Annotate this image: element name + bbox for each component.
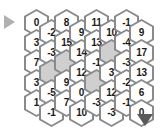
hex-grid-widget: 03731-2-3-5-181597914120101113-1-310312-… [0, 0, 163, 135]
down-arrow-icon[interactable] [137, 114, 153, 126]
